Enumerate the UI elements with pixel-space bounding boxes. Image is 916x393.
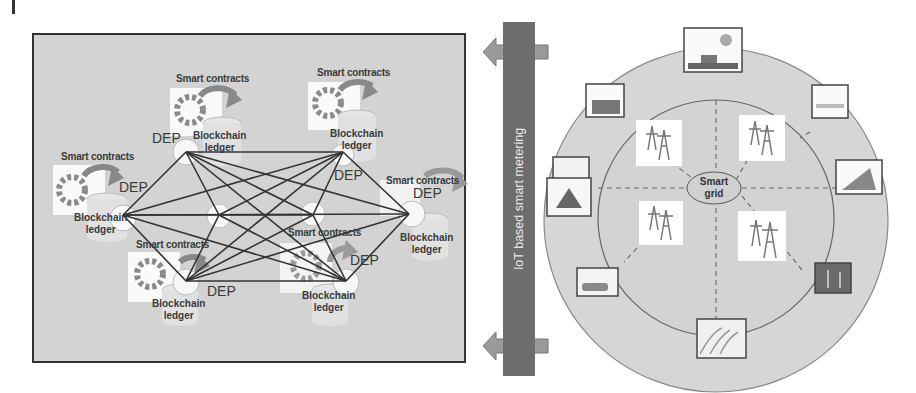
blockchain-ledger-label: Blockchainledger [330, 128, 383, 152]
dep-label: DEP [334, 167, 363, 183]
blockchain-ledger-label: Blockchainledger [152, 298, 205, 322]
network-graphics [0, 0, 916, 393]
smart-grid-diagram [544, 28, 888, 392]
iot-smart-metering-bar: IoT based smart metering [503, 22, 535, 376]
dep-label: DEP [119, 179, 148, 195]
smart-contracts-label: Smart contracts [288, 227, 361, 238]
smart-contracts-label: Smart contracts [136, 239, 209, 250]
smart-contracts-label: Smart contracts [317, 67, 390, 78]
blockchain-ledger-label: Blockchainledger [302, 290, 355, 314]
iot-smart-metering-label: IoT based smart metering [512, 128, 526, 270]
dep-label: DEP [413, 185, 442, 201]
dep-label: DEP [152, 130, 181, 146]
blockchain-ledger-label: Blockchainledger [400, 232, 453, 256]
smart-contracts-label: Smart contracts [61, 151, 134, 162]
smart-grid-label: Smartgrid [690, 176, 738, 200]
dep-label: DEP [207, 283, 236, 299]
blockchain-ledger-label: Blockchainledger [74, 212, 127, 236]
smart-contracts-label: Smart contracts [176, 73, 249, 84]
blockchain-ledger-label: Blockchainledger [193, 130, 246, 154]
dep-label: DEP [350, 252, 379, 268]
